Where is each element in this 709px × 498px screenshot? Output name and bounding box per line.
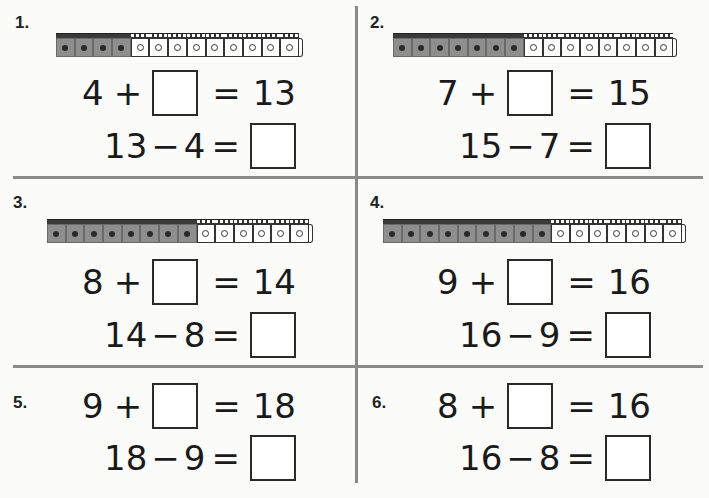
plus-sign: + bbox=[469, 73, 498, 113]
equals-sign: = bbox=[566, 438, 595, 478]
white-cube bbox=[290, 219, 309, 243]
plus-sign: + bbox=[114, 73, 143, 113]
addend: 7 bbox=[437, 73, 459, 113]
subtraction-equation: 18 − 9 = bbox=[104, 435, 296, 481]
white-cube bbox=[561, 33, 580, 57]
answer-box[interactable] bbox=[507, 259, 553, 305]
minuend: 16 bbox=[459, 315, 502, 355]
addend: 8 bbox=[82, 262, 104, 302]
sum: 13 bbox=[253, 73, 296, 113]
gray-cube bbox=[140, 219, 159, 243]
minuend: 16 bbox=[459, 438, 502, 478]
sum: 14 bbox=[253, 262, 296, 302]
subtraction-equation: 15 − 7 = bbox=[459, 123, 651, 169]
addition-equation: 7 + = 15 bbox=[437, 70, 651, 116]
white-cube bbox=[187, 33, 206, 57]
equals-sign: = bbox=[212, 262, 241, 302]
answer-box[interactable] bbox=[605, 312, 651, 358]
subtraction-equation: 14 − 8 = bbox=[104, 312, 296, 358]
equals-sign: = bbox=[211, 315, 240, 355]
plus-sign: + bbox=[114, 262, 143, 302]
minus-sign: − bbox=[151, 126, 180, 166]
white-cube bbox=[243, 33, 262, 57]
white-cube bbox=[663, 219, 682, 243]
gray-cube bbox=[93, 33, 112, 57]
plus-sign: + bbox=[114, 386, 143, 426]
white-cube bbox=[253, 219, 272, 243]
white-cube bbox=[206, 33, 225, 57]
white-cube bbox=[262, 33, 281, 57]
equals-sign: = bbox=[566, 126, 595, 166]
white-cube bbox=[570, 219, 589, 243]
gray-cube bbox=[159, 219, 178, 243]
answer-box[interactable] bbox=[605, 123, 651, 169]
problem-number: 4. bbox=[370, 194, 384, 211]
gray-cube bbox=[84, 219, 103, 243]
problem-number: 2. bbox=[370, 14, 384, 31]
gray-cube bbox=[449, 33, 468, 57]
problem-number: 3. bbox=[13, 194, 27, 211]
equals-sign: = bbox=[566, 315, 595, 355]
gray-cube bbox=[122, 219, 141, 243]
white-cube bbox=[224, 33, 243, 57]
equals-sign: = bbox=[211, 126, 240, 166]
answer-box[interactable] bbox=[152, 383, 198, 429]
white-cube bbox=[234, 219, 253, 243]
gray-cube bbox=[103, 219, 122, 243]
subtrahend: 8 bbox=[539, 438, 561, 478]
cube-train bbox=[393, 33, 677, 57]
white-cube bbox=[617, 33, 636, 57]
minus-sign: − bbox=[506, 315, 535, 355]
gray-cube bbox=[393, 33, 412, 57]
answer-box[interactable] bbox=[605, 435, 651, 481]
sum: 15 bbox=[608, 73, 651, 113]
minuend: 18 bbox=[104, 438, 147, 478]
equals-sign: = bbox=[212, 386, 241, 426]
white-cube bbox=[607, 219, 626, 243]
addend: 8 bbox=[437, 386, 459, 426]
gray-cube bbox=[514, 219, 533, 243]
answer-box[interactable] bbox=[250, 435, 296, 481]
vertical-divider bbox=[355, 6, 358, 483]
white-cube bbox=[197, 219, 216, 243]
answer-box[interactable] bbox=[152, 70, 198, 116]
equals-sign: = bbox=[211, 438, 240, 478]
gray-cube bbox=[412, 33, 431, 57]
subtraction-equation: 13 − 4 = bbox=[104, 123, 296, 169]
equals-sign: = bbox=[567, 386, 596, 426]
answer-box[interactable] bbox=[152, 259, 198, 305]
sum: 16 bbox=[608, 262, 651, 302]
sum: 18 bbox=[253, 386, 296, 426]
subtrahend: 4 bbox=[184, 126, 206, 166]
subtrahend: 7 bbox=[539, 126, 561, 166]
sum: 16 bbox=[608, 386, 651, 426]
equals-sign: = bbox=[567, 262, 596, 302]
gray-cube bbox=[430, 33, 449, 57]
subtraction-equation: 16 − 9 = bbox=[459, 312, 651, 358]
cube-connector-icon bbox=[299, 38, 303, 57]
plus-sign: + bbox=[469, 386, 498, 426]
answer-box[interactable] bbox=[250, 312, 296, 358]
white-cube bbox=[589, 219, 608, 243]
gray-cube bbox=[458, 219, 477, 243]
addition-equation: 9 + = 18 bbox=[82, 383, 296, 429]
subtraction-equation: 16 − 8 = bbox=[459, 435, 651, 481]
answer-box[interactable] bbox=[250, 123, 296, 169]
cube-train bbox=[383, 219, 686, 243]
horizontal-divider-2 bbox=[13, 365, 703, 368]
cube-connector-icon bbox=[682, 224, 686, 243]
plus-sign: + bbox=[469, 262, 498, 302]
answer-box[interactable] bbox=[507, 70, 553, 116]
gray-cube bbox=[495, 219, 514, 243]
white-cube bbox=[168, 33, 187, 57]
answer-box[interactable] bbox=[507, 383, 553, 429]
gray-cube bbox=[533, 219, 552, 243]
minus-sign: − bbox=[506, 126, 535, 166]
white-cube bbox=[645, 219, 664, 243]
addition-equation: 9 + = 16 bbox=[437, 259, 651, 305]
white-cube bbox=[524, 33, 543, 57]
addition-equation: 8 + = 16 bbox=[437, 383, 651, 429]
white-cube bbox=[551, 219, 570, 243]
subtrahend: 8 bbox=[184, 315, 206, 355]
white-cube bbox=[149, 33, 168, 57]
